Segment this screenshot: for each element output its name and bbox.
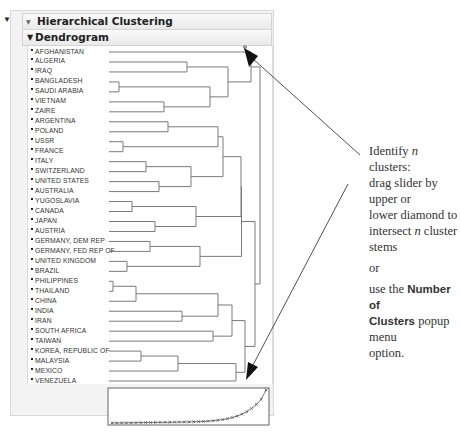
upper-diamond-handle[interactable] <box>244 46 247 49</box>
annotation-arrows <box>244 48 360 380</box>
scree-plot <box>108 388 269 425</box>
annotation-text: Identify n clusters: drag slider by uppe… <box>369 143 460 361</box>
